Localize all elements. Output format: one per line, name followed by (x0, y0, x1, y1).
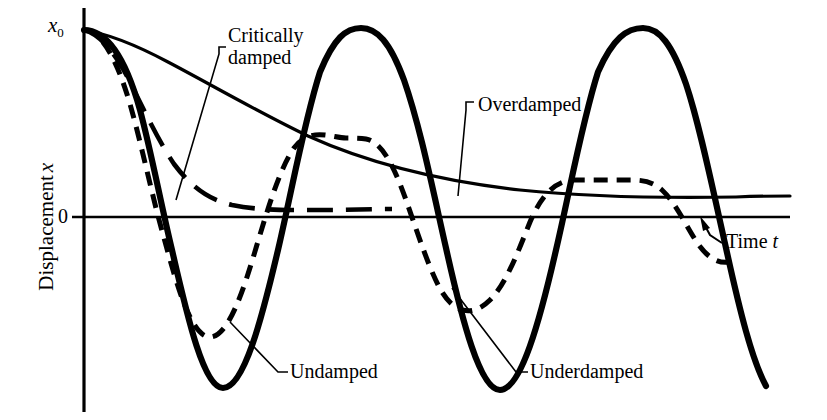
initial-displacement-label: x0 (48, 14, 64, 41)
damped-oscillation-figure: x0 0 Displacementx Time t Critically dam… (0, 0, 827, 420)
curve-overdamped (84, 30, 790, 197)
annotation-undamped: Undamped (290, 360, 378, 382)
plot-area (0, 0, 827, 420)
annotation-overdamped: Overdamped (478, 93, 581, 115)
x-axis-label: Time t (726, 230, 778, 252)
origin-label: 0 (58, 205, 68, 227)
y-axis-label: Displacementx (35, 117, 59, 337)
annotation-critically-damped: Critically damped (228, 24, 304, 69)
annotation-critically-damped-line1: Critically (228, 24, 304, 46)
annotation-underdamped: Underdamped (530, 360, 643, 382)
curve-undamped (84, 28, 766, 390)
annotation-critically-damped-line2: damped (228, 46, 304, 68)
